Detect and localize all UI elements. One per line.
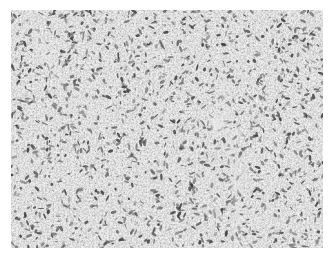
histology-image: Grayscale photomicrograph of densely cel… (11, 10, 323, 248)
tissue-texture (11, 10, 323, 248)
